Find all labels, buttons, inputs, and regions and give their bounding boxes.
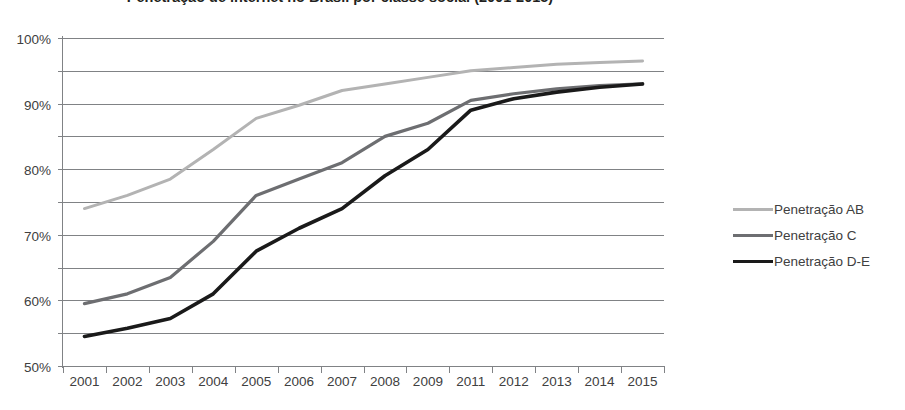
x-axis-label: 2013	[542, 374, 572, 389]
x-axis-tick	[578, 366, 579, 373]
y-axis-label: 50%	[24, 360, 51, 375]
legend-swatch	[733, 208, 773, 211]
x-axis-label: 2003	[155, 374, 185, 389]
x-axis-label: 2005	[241, 374, 271, 389]
series-line	[84, 84, 642, 337]
chart-legend: Penetração ABPenetração CPenetração D-E	[733, 196, 903, 274]
legend-label: Penetração C	[774, 228, 857, 243]
legend-label: Penetração D-E	[774, 254, 870, 269]
x-axis-label: 2014	[585, 374, 615, 389]
chart-container: Penetração de internet no Brasil por cla…	[0, 0, 905, 410]
x-axis-tick	[63, 366, 64, 373]
x-axis-tick	[406, 366, 407, 373]
x-axis-tick	[535, 366, 536, 373]
x-axis-tick	[621, 366, 622, 373]
series-lines-group	[63, 38, 664, 366]
x-axis-label: 2008	[370, 374, 400, 389]
x-axis-tick	[321, 366, 322, 373]
legend-item[interactable]: Penetração C	[733, 222, 903, 248]
legend-item[interactable]: Penetração AB	[733, 196, 903, 222]
chart-title: Penetração de internet no Brasil por cla…	[0, 0, 680, 5]
x-axis-label: 2009	[413, 374, 443, 389]
legend-swatch	[733, 260, 773, 263]
x-axis-tick	[106, 366, 107, 373]
x-axis-tick	[449, 366, 450, 373]
x-axis-tick	[278, 366, 279, 373]
x-axis-tick	[235, 366, 236, 373]
x-axis-tick	[492, 366, 493, 373]
series-line	[84, 61, 642, 209]
legend-label: Penetração AB	[774, 202, 864, 217]
y-axis-label: 60%	[24, 294, 51, 309]
legend-swatch	[733, 234, 773, 237]
x-axis-label: 2001	[69, 374, 99, 389]
y-axis-label: 80%	[24, 163, 51, 178]
x-axis-tick	[149, 366, 150, 373]
plot-area: 0%10%20%30%40%50%60%70%80%90%100%	[63, 38, 664, 366]
x-axis-tick	[364, 366, 365, 373]
x-axis-label: 2012	[499, 374, 529, 389]
y-axis-label: 70%	[24, 228, 51, 243]
x-axis-tick	[192, 366, 193, 373]
x-axis-label: 2011	[456, 374, 485, 389]
x-axis-label: 2006	[284, 374, 314, 389]
x-axis-label: 2015	[628, 374, 658, 389]
y-axis-label: 90%	[24, 97, 51, 112]
y-axis-label: 100%	[16, 32, 51, 47]
x-axis-label: 2007	[327, 374, 357, 389]
x-axis-tick	[664, 366, 665, 373]
legend-item[interactable]: Penetração D-E	[733, 248, 903, 274]
x-axis-label: 2004	[198, 374, 228, 389]
x-axis-label: 2002	[112, 374, 142, 389]
